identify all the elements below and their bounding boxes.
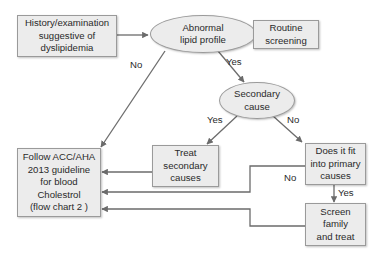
node-primary-causes: Does it fit into primary causes (305, 143, 366, 185)
node-screen-family: Screen family and treat (305, 203, 366, 246)
edge-label-abnormal-no: No (130, 59, 142, 70)
edge-label-abnormal-yes: Yes (226, 56, 242, 67)
node-treat-label: Treat secondary causes (163, 147, 207, 184)
node-history-label: History/examination suggestive of dyslip… (25, 17, 109, 54)
node-secondary-label: Secondary cause (234, 88, 280, 113)
node-treat-secondary-causes: Treat secondary causes (152, 145, 219, 187)
node-screen-label: Screen family and treat (317, 206, 355, 243)
edge-label-primary-yes: Yes (338, 187, 354, 198)
node-follow-label: Follow ACC/AHA 2013 guideline for blood … (23, 151, 96, 213)
edge-label-secondary-yes: Yes (207, 114, 223, 125)
edge-screen-to-follow (102, 209, 305, 226)
node-abnormal-label: Abnormal lipid profile (180, 22, 226, 47)
node-follow-guideline: Follow ACC/AHA 2013 guideline for blood … (17, 148, 101, 217)
node-routine-label: Routine screening (265, 22, 307, 47)
edge-label-secondary-no: No (287, 114, 299, 125)
edge-label-primary-no: No (284, 172, 296, 183)
node-abnormal-lipid-profile: Abnormal lipid profile (150, 15, 256, 53)
node-routine-screening: Routine screening (253, 20, 319, 49)
node-primary-label: Does it fit into primary causes (310, 145, 360, 182)
node-secondary-cause: Secondary cause (219, 82, 295, 119)
node-history: History/examination suggestive of dyslip… (17, 15, 117, 57)
